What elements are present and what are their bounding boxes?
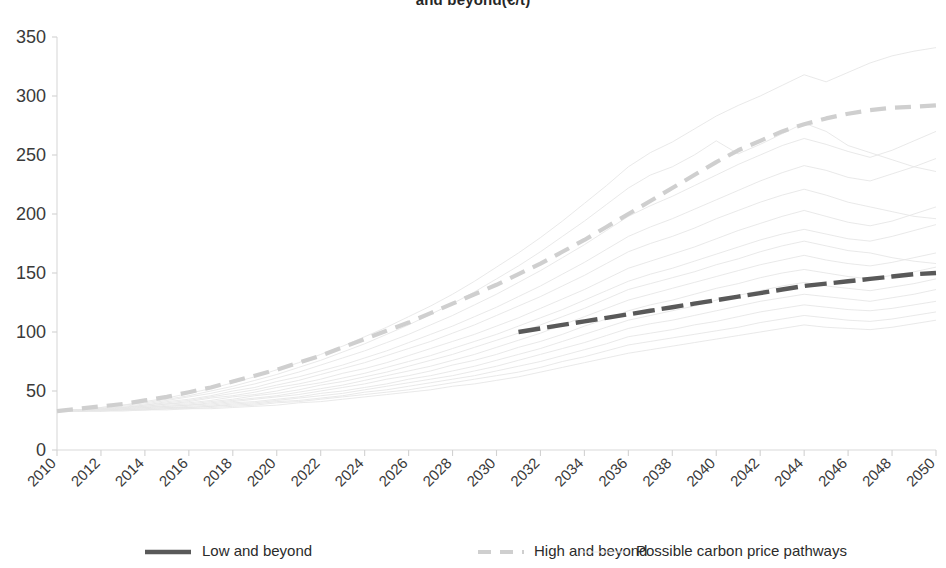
- low-and-beyond-line: [518, 273, 936, 332]
- pathways-group: [57, 48, 936, 411]
- low-and-beyond-group: [518, 273, 936, 332]
- pathway-line: [57, 131, 936, 411]
- y-tick-label: 300: [16, 86, 46, 106]
- chart-title: and beyond(€/t): [0, 0, 946, 8]
- high-and-beyond-group: [57, 105, 936, 411]
- pathway-line: [57, 267, 936, 411]
- legend-label: High and beyond: [534, 542, 647, 559]
- x-tick-label: 2032: [507, 454, 543, 490]
- chart-legend: Low and beyondHigh and beyondPossible ca…: [145, 542, 847, 559]
- legend-item-high-and-beyond[interactable]: High and beyond: [478, 542, 647, 559]
- x-tick-label: 2042: [727, 454, 763, 490]
- x-tick-label: 2044: [771, 454, 807, 490]
- x-tick-label: 2018: [199, 454, 235, 490]
- y-tick-label: 350: [16, 27, 46, 47]
- y-tick-label: 50: [26, 381, 46, 401]
- x-tick-label: 2048: [859, 454, 895, 490]
- legend-label: Low and beyond: [202, 542, 312, 559]
- pathway-line: [57, 253, 936, 411]
- pathway-line: [57, 189, 936, 411]
- y-tick-label: 100: [16, 322, 46, 342]
- legend-item-low-and-beyond[interactable]: Low and beyond: [145, 542, 312, 559]
- x-tick-label: 2040: [683, 454, 719, 490]
- x-tick-label: 2010: [24, 454, 60, 490]
- x-tick-label: 2016: [155, 454, 191, 490]
- x-tick-label: 2012: [67, 454, 103, 490]
- x-tick-label: 2022: [287, 454, 323, 490]
- axes-group: 0501001502002503003502010201220142016201…: [16, 27, 938, 490]
- x-tick-label: 2038: [639, 454, 675, 490]
- high-and-beyond-line: [57, 105, 936, 411]
- pathway-line: [57, 320, 936, 411]
- x-tick-label: 2036: [595, 454, 631, 490]
- y-tick-label: 200: [16, 204, 46, 224]
- x-tick-label: 2028: [419, 454, 455, 490]
- pathway-line: [57, 312, 936, 411]
- x-tick-label: 2024: [331, 454, 367, 490]
- x-tick-label: 2020: [243, 454, 279, 490]
- x-tick-label: 2030: [463, 454, 499, 490]
- x-tick-label: 2050: [903, 454, 939, 490]
- y-tick-label: 250: [16, 145, 46, 165]
- legend-label: Possible carbon price pathways: [636, 542, 847, 559]
- x-tick-label: 2026: [375, 454, 411, 490]
- x-tick-label: 2046: [815, 454, 851, 490]
- y-tick-label: 150: [16, 263, 46, 283]
- chart-canvas: 0501001502002503003502010201220142016201…: [0, 0, 946, 568]
- carbon-price-chart: and beyond(€/t) 050100150200250300350201…: [0, 0, 946, 568]
- pathway-line: [57, 225, 936, 411]
- pathway-line: [57, 301, 936, 411]
- x-tick-label: 2014: [111, 454, 147, 490]
- x-tick-label: 2034: [551, 454, 587, 490]
